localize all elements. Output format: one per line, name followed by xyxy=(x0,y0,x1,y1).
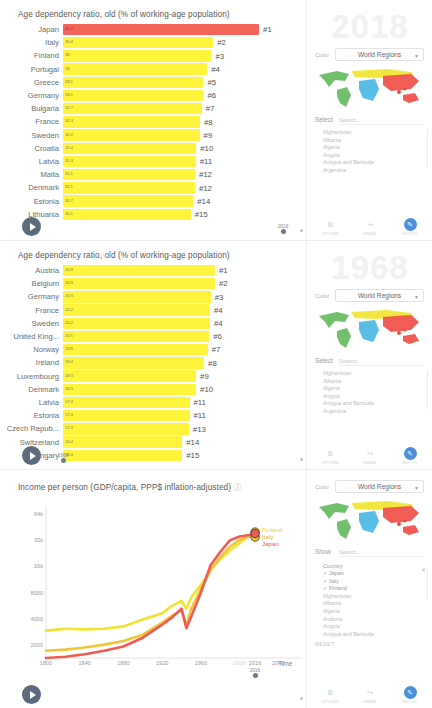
bar-row[interactable]: United King...20.1#6 xyxy=(0,330,306,343)
select-control[interactable]: Select Search... xyxy=(307,116,432,125)
clear-selection-icon[interactable]: ✕ xyxy=(421,566,426,573)
bar[interactable]: 32.2 xyxy=(63,129,200,140)
bar-row[interactable]: Germany20.3#3 xyxy=(0,290,306,303)
bar[interactable]: 17.3 xyxy=(63,423,189,434)
list-item[interactable]: Antigua and Barbuda xyxy=(323,631,424,639)
country-list[interactable]: AfghanistanAlbaniaAlgeriaAngolaAntigua a… xyxy=(307,125,432,175)
bar-row[interactable]: Germany33.1#6 xyxy=(0,89,306,102)
show-control[interactable]: Show Search... xyxy=(307,548,432,557)
list-item[interactable]: Albania xyxy=(323,137,424,145)
line-chart[interactable]: 20004000800016k32k64k1800184018801920196… xyxy=(0,496,306,686)
bar-row[interactable]: Belgium20.9#2 xyxy=(0,277,306,290)
bottom-toolbar[interactable]: ⚙OPTIONS↪SHARE✎EDITOR xyxy=(307,447,432,465)
list-item[interactable]: Afghanistan xyxy=(323,129,424,137)
bar[interactable]: 20.1 xyxy=(63,331,209,342)
bar-row[interactable]: Latvia17.4#11 xyxy=(0,396,306,409)
bar[interactable]: 20.2 xyxy=(63,318,210,329)
options-icon[interactable]: ⚙OPTIONS xyxy=(317,447,343,465)
share-icon[interactable]: ↪SHARE xyxy=(357,686,383,704)
bar-row[interactable]: France20.2#4 xyxy=(0,304,306,317)
color-select[interactable]: World Regions ▼ xyxy=(335,289,424,302)
list-item[interactable]: Andorra xyxy=(323,616,424,624)
series-endpoint-japan[interactable] xyxy=(251,529,259,537)
list-item[interactable]: Argentina xyxy=(323,167,424,175)
year-knob[interactable] xyxy=(281,229,286,234)
bar-row[interactable]: Bulgaria32.7#7 xyxy=(0,102,306,115)
list-item[interactable]: ✓Italy xyxy=(323,578,424,586)
bar[interactable]: 19.9 xyxy=(63,344,208,355)
select-control[interactable]: Select Search... xyxy=(307,357,432,366)
bar-row[interactable]: Italy35.4#2 xyxy=(0,36,306,49)
bar[interactable]: 18.3 xyxy=(63,384,196,395)
bar[interactable]: 34 xyxy=(63,63,207,74)
list-item[interactable]: Angola xyxy=(323,393,424,401)
info-icon[interactable]: ⓘ xyxy=(233,483,241,492)
timeline-endpoint[interactable] xyxy=(300,697,303,700)
list-item[interactable]: Algeria xyxy=(323,144,424,152)
bar-row[interactable]: Portugal34#4 xyxy=(0,63,306,76)
bar-row[interactable]: Sweden20.2#4 xyxy=(0,317,306,330)
bar-row[interactable]: Estonia17.4#11 xyxy=(0,409,306,422)
bar-row[interactable]: Finland35#3 xyxy=(0,49,306,62)
list-item[interactable]: Algeria xyxy=(323,608,424,616)
bar[interactable]: 32.7 xyxy=(63,103,202,114)
reset-link[interactable]: RESET xyxy=(307,638,432,647)
search-input[interactable]: Search... xyxy=(339,358,424,366)
bar[interactable]: 33.1 xyxy=(63,77,203,88)
bar[interactable]: 17.4 xyxy=(63,397,190,408)
bar-row[interactable]: Japan46.2#1 xyxy=(0,23,306,36)
timeline-endpoint[interactable] xyxy=(300,229,303,232)
bar[interactable]: 31.1 xyxy=(63,169,195,180)
bar[interactable]: 31.1 xyxy=(63,182,195,193)
bar-row[interactable]: Denmark18.3#10 xyxy=(0,383,306,396)
bar[interactable]: 18.3 xyxy=(63,370,196,381)
year-handle[interactable]: 2018 xyxy=(278,224,288,234)
timeline-2018[interactable]: 2018 xyxy=(0,212,306,238)
bar-row[interactable]: Denmark31.1#12 xyxy=(0,181,306,194)
bar[interactable]: 20.3 xyxy=(63,291,211,302)
bar-chart-1968[interactable]: Austria20.9#1Belgium20.9#2Germany20.3#3F… xyxy=(0,264,306,462)
bar[interactable]: 46.2 xyxy=(63,24,259,35)
bar[interactable]: 35.4 xyxy=(63,37,213,48)
list-item[interactable]: Afghanistan xyxy=(323,370,424,378)
country-list[interactable]: AfghanistanAlbaniaAlgeriaAngolaAntigua a… xyxy=(307,366,432,416)
bar[interactable]: 31.4 xyxy=(63,143,196,154)
options-icon[interactable]: ⚙OPTIONS xyxy=(317,218,343,236)
bar-row[interactable]: Latvia31.3#11 xyxy=(0,155,306,168)
bottom-toolbar[interactable]: ⚙OPTIONS↪SHARE✎EDITOR xyxy=(307,686,432,704)
bar-row[interactable]: Greece33.1#5 xyxy=(0,76,306,89)
year-knob[interactable] xyxy=(61,458,66,463)
edit-icon[interactable]: ✎EDITOR xyxy=(397,447,423,465)
bar-row[interactable]: Norway19.9#7 xyxy=(0,343,306,356)
scrollbar[interactable] xyxy=(427,370,429,410)
play-button[interactable] xyxy=(22,446,41,465)
search-input[interactable]: Search... xyxy=(339,549,424,557)
search-input[interactable]: Search... xyxy=(339,117,424,125)
timeline-1968[interactable]: 1968 xyxy=(0,441,306,467)
bar-row[interactable]: France32.3#8 xyxy=(0,115,306,128)
bar[interactable]: 20.2 xyxy=(63,304,210,315)
bar-row[interactable]: Ireland19.4#8 xyxy=(0,356,306,369)
bar[interactable]: 17.4 xyxy=(63,410,190,421)
bar-row[interactable]: Austria20.9#1 xyxy=(0,264,306,277)
list-item[interactable]: Angola xyxy=(323,623,424,631)
year-handle[interactable]: 2016 xyxy=(246,668,264,678)
bar[interactable]: 32.3 xyxy=(63,116,200,127)
bar[interactable]: 31.3 xyxy=(63,156,196,167)
list-item[interactable]: ✓Finland xyxy=(323,585,424,593)
edit-icon[interactable]: ✎EDITOR xyxy=(397,686,423,704)
share-icon[interactable]: ↪SHARE xyxy=(357,218,383,236)
bar-row[interactable]: Czech Repub...17.3#13 xyxy=(0,422,306,435)
list-item[interactable]: Antigua and Barbuda xyxy=(323,400,424,408)
bar[interactable]: 33.1 xyxy=(63,90,203,101)
year-handle[interactable]: 1968 xyxy=(58,453,68,463)
list-item[interactable]: Albania xyxy=(323,600,424,608)
list-item[interactable]: Algeria xyxy=(323,385,424,393)
bar[interactable]: 20.9 xyxy=(63,278,215,289)
list-item[interactable]: Angola xyxy=(323,152,424,160)
options-icon[interactable]: ⚙OPTIONS xyxy=(317,686,343,704)
bar[interactable]: 20.9 xyxy=(63,265,215,276)
timeline-endpoint[interactable] xyxy=(300,458,303,461)
color-select[interactable]: World Regions ▼ xyxy=(335,480,424,493)
color-control[interactable]: Color World Regions ▼ xyxy=(307,480,432,493)
